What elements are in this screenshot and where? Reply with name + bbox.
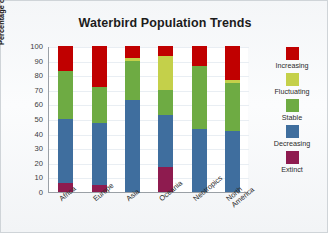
bar-segment[interactable] (225, 83, 240, 131)
y-tick-label: 20 (21, 159, 43, 168)
bar-segment[interactable] (158, 46, 173, 56)
bar-segment[interactable] (158, 56, 173, 90)
gridline (49, 135, 249, 136)
legend-swatch (286, 73, 299, 86)
legend-label: Increasing (259, 61, 325, 70)
legend-swatch (286, 125, 299, 138)
chart-title: Waterbird Population Trends (1, 16, 328, 30)
y-tick-label: 50 (21, 115, 43, 124)
legend-swatch (286, 47, 299, 60)
bar[interactable] (92, 46, 107, 192)
legend-label: Stable (259, 113, 325, 122)
bar-segment[interactable] (125, 61, 140, 100)
bar-segment[interactable] (125, 100, 140, 192)
legend-item[interactable]: Decreasing (259, 125, 325, 148)
y-axis-title: Percentage of populations of known trend… (0, 0, 6, 45)
bar-segment[interactable] (125, 46, 140, 58)
legend-label: Decreasing (259, 139, 325, 148)
y-tick-label: 90 (21, 57, 43, 66)
y-tick-label: 10 (21, 173, 43, 182)
gridline (49, 120, 249, 121)
bar-segment[interactable] (192, 46, 207, 66)
y-tick-label: 80 (21, 71, 43, 80)
bar[interactable] (125, 46, 140, 192)
y-tick-label: 100 (21, 42, 43, 51)
plot-area (48, 47, 248, 193)
chart-legend: IncreasingFluctuatingStableDecreasingExt… (259, 47, 325, 177)
bar-segment[interactable] (192, 66, 207, 129)
y-tick-label: 40 (21, 130, 43, 139)
gridline (49, 105, 249, 106)
gridline (49, 149, 249, 150)
bar-segment[interactable] (58, 71, 73, 119)
legend-item[interactable]: Stable (259, 99, 325, 122)
bar-segment[interactable] (58, 119, 73, 183)
y-tick-label: 60 (21, 100, 43, 109)
legend-item[interactable]: Extinct (259, 151, 325, 174)
bar-segment[interactable] (192, 129, 207, 192)
gridline (49, 47, 249, 48)
y-tick-label: 30 (21, 144, 43, 153)
bar-segment[interactable] (58, 46, 73, 71)
legend-swatch (286, 99, 299, 112)
bar[interactable] (58, 46, 73, 192)
legend-label: Extinct (259, 165, 325, 174)
bar[interactable] (225, 46, 240, 192)
bar-segment[interactable] (92, 87, 107, 124)
legend-item[interactable]: Increasing (259, 47, 325, 70)
bar[interactable] (192, 46, 207, 192)
gridline (49, 164, 249, 165)
bar-segment[interactable] (225, 131, 240, 192)
gridline (49, 62, 249, 63)
legend-item[interactable]: Fluctuating (259, 73, 325, 96)
bar-segment[interactable] (225, 46, 240, 80)
bar-segment[interactable] (158, 90, 173, 115)
gridline (49, 91, 249, 92)
bar[interactable] (158, 46, 173, 192)
chart-figure: Waterbird Population Trends Percentage o… (0, 0, 328, 233)
legend-swatch (286, 151, 299, 164)
y-tick-label: 0 (21, 188, 43, 197)
bar-segment[interactable] (92, 46, 107, 87)
bar-segment[interactable] (92, 123, 107, 184)
legend-label: Fluctuating (259, 87, 325, 96)
y-tick-label: 70 (21, 86, 43, 95)
gridline (49, 76, 249, 77)
bar-segment[interactable] (158, 115, 173, 168)
